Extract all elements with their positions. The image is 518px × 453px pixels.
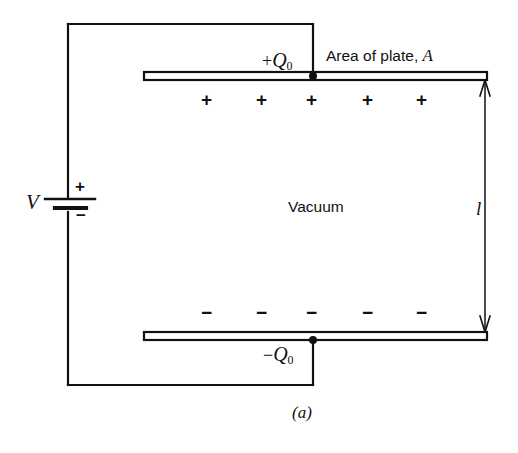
top-charge-sign: + — [262, 51, 272, 71]
top-plate-junction-dot — [309, 72, 317, 80]
bottom-charge-sign: − — [263, 345, 273, 365]
vacuum-label: Vacuum — [288, 199, 344, 215]
voltage-label: V — [26, 192, 39, 213]
top-charge-subscript: 0 — [287, 59, 293, 73]
bottom-plate-charge-mark: − — [201, 303, 212, 322]
bottom-plate-charge-mark: − — [416, 303, 427, 322]
figure-caption: (a) — [292, 404, 312, 421]
top-plate-charge-mark: + — [201, 90, 212, 109]
bottom-plate-charge-label: −Q0 — [263, 344, 294, 366]
area-of-plate-label: Area of plate, A — [326, 47, 433, 64]
separation-label: l — [476, 199, 481, 218]
area-symbol: A — [423, 46, 433, 65]
bottom-charge-subscript: 0 — [288, 353, 294, 367]
bottom-plate-charge-mark: − — [306, 303, 317, 322]
bottom-plate-junction-dot — [309, 336, 317, 344]
battery-minus-sign: − — [76, 207, 86, 224]
battery-plus-sign: + — [75, 178, 85, 195]
top-plate-charge-mark: + — [306, 90, 317, 109]
circuit-drawing — [0, 0, 518, 453]
top-plate-charge-mark: + — [362, 90, 373, 109]
top-charge-symbol: Q — [272, 49, 286, 71]
top-plate-charge-mark: + — [256, 90, 267, 109]
area-of-plate-text: Area of plate, — [326, 47, 418, 64]
capacitor-figure: +Q0 Area of plate, A Vacuum V l + − −Q0 … — [0, 0, 518, 453]
bottom-plate-charge-mark: − — [256, 303, 267, 322]
bottom-plate-charge-mark: − — [362, 303, 373, 322]
top-plate-charge-label: +Q0 — [262, 50, 293, 72]
top-plate-charge-mark: + — [416, 90, 427, 109]
bottom-charge-symbol: Q — [273, 343, 287, 365]
